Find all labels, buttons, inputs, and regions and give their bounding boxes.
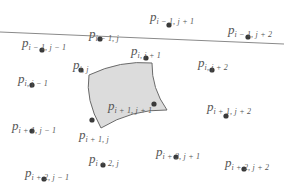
point-label-base: p: [131, 43, 138, 58]
point-label-base: p: [79, 127, 86, 142]
point-label-subscript: i, j + 2: [205, 63, 228, 72]
point-label-p-im1-jp1: pi − 1, j + 1: [150, 8, 194, 24]
point-label-base: p: [156, 144, 163, 159]
point-label-base: p: [150, 9, 157, 24]
point-label-base: p: [207, 99, 214, 114]
point-label-subscript: i + 1, j + 1: [115, 106, 153, 115]
point-label-subscript: i + 2, j − 1: [32, 173, 70, 182]
point-label-subscript: i − 1, j + 2: [235, 30, 273, 39]
point-label-subscript: i + 1, j − 1: [19, 126, 57, 135]
point-label-base: p: [89, 151, 96, 166]
point-label-p-ip2-j: pi + 2, j: [89, 150, 119, 166]
point-label-subscript: i + 1, j: [86, 135, 109, 144]
point-label-base: p: [25, 165, 32, 180]
point-label-p-ip2-jp1: pi + 2, j + 1: [156, 143, 200, 159]
point-label-p-im1-j: pi − 1, j: [89, 25, 119, 41]
point-label-subscript: i + 2, j: [96, 159, 119, 168]
point-label-p-i-jm1: pi, j − 1: [18, 70, 48, 86]
point-label-subscript: i + 1, j + 2: [214, 107, 252, 116]
surface-patch: [88, 63, 167, 129]
control-point-p-ip1-jp1: [151, 101, 156, 106]
point-label-p-i-jp2: pi, j + 2: [198, 54, 228, 70]
point-label-base: p: [73, 57, 80, 72]
point-label-subscript: i − 1, j + 1: [157, 17, 195, 26]
point-label-base: p: [12, 118, 19, 133]
point-label-subscript: i, j + 1: [138, 51, 161, 60]
point-label-p-ip1-j: pi + 1, j: [79, 126, 109, 142]
point-label-subscript: i, j: [80, 65, 89, 74]
point-label-base: p: [22, 35, 29, 50]
control-point-p-ip1-j: [89, 117, 94, 122]
point-label-subscript: i, j − 1: [25, 79, 48, 88]
point-label-subscript: i + 2, j + 2: [232, 163, 270, 172]
point-label-p-ip2-jp2: pi + 2, j + 2: [225, 154, 269, 170]
point-label-subscript: i − 1, j − 1: [29, 43, 67, 52]
point-label-subscript: i + 2, j + 1: [163, 152, 201, 161]
point-label-base: p: [108, 98, 115, 113]
point-label-subscript: i − 1, j: [96, 34, 119, 43]
point-label-p-im1-jp2: pi − 1, j + 2: [228, 21, 272, 37]
point-label-p-ip1-jp2: pi + 1, j + 2: [207, 98, 251, 114]
point-label-base: p: [228, 22, 235, 37]
point-label-p-ip1-jm1: pi + 1, j − 1: [12, 117, 56, 133]
point-label-p-im1-jm1: pi − 1, j − 1: [22, 34, 66, 50]
point-label-base: p: [225, 155, 232, 170]
point-label-base: p: [18, 71, 25, 86]
point-label-base: p: [89, 26, 96, 41]
point-label-p-ip2-jm1: pi + 2, j − 1: [25, 164, 69, 180]
point-label-p-i-jp1: pi, j + 1: [131, 42, 161, 58]
point-label-p-i-j: pi, j: [73, 56, 89, 72]
point-label-base: p: [198, 55, 205, 70]
point-label-p-ip1-jp1: pi + 1, j + 1: [108, 97, 152, 113]
